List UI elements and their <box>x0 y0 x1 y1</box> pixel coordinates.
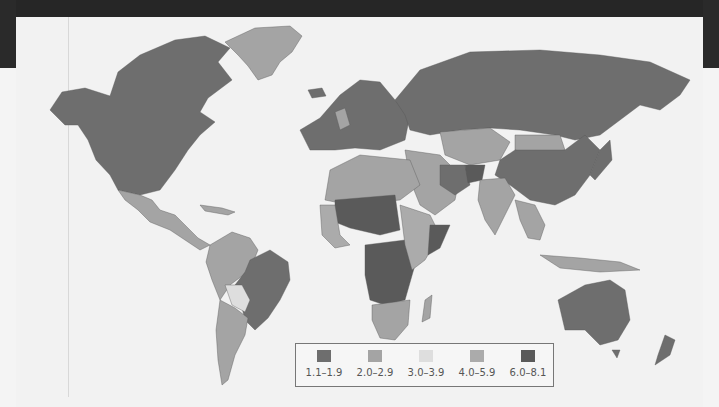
legend-swatch <box>419 350 433 362</box>
legend-swatch <box>470 350 484 362</box>
region-southeast-asia <box>515 200 545 240</box>
region-iceland <box>308 88 326 98</box>
legend-label: 2.0–2.9 <box>350 367 400 378</box>
region-madagascar <box>422 295 432 322</box>
legend-item: 3.0–3.9 <box>401 350 451 378</box>
region-central-asia <box>440 128 510 165</box>
region-mexico <box>118 190 210 250</box>
region-australia <box>558 280 630 345</box>
region-sahel <box>335 195 400 235</box>
legend-label: 3.0–3.9 <box>401 367 451 378</box>
region-india <box>478 178 515 235</box>
legend-label: 4.0–5.9 <box>452 367 502 378</box>
region-russia <box>395 50 690 140</box>
region-greenland <box>225 26 302 80</box>
region-north-america <box>50 36 232 195</box>
legend-item: 6.0–8.1 <box>503 350 553 378</box>
region-somalia <box>428 225 450 255</box>
legend-swatch <box>368 350 382 362</box>
legend-swatch <box>521 350 535 362</box>
legend-label: 6.0–8.1 <box>503 367 553 378</box>
legend-item: 2.0–2.9 <box>350 350 400 378</box>
legend-label: 1.1–1.9 <box>299 367 349 378</box>
legend-swatch <box>317 350 331 362</box>
region-indonesia <box>540 255 640 272</box>
region-tasmania <box>612 350 620 358</box>
legend-item: 4.0–5.9 <box>452 350 502 378</box>
legend-item: 1.1–1.9 <box>299 350 349 378</box>
region-caribbean <box>200 205 235 215</box>
map-legend: 1.1–1.9 2.0–2.9 3.0–3.9 4.0–5.9 6.0–8.1 <box>295 343 554 387</box>
region-new-zealand <box>655 335 675 365</box>
region-southern-africa <box>372 300 410 340</box>
